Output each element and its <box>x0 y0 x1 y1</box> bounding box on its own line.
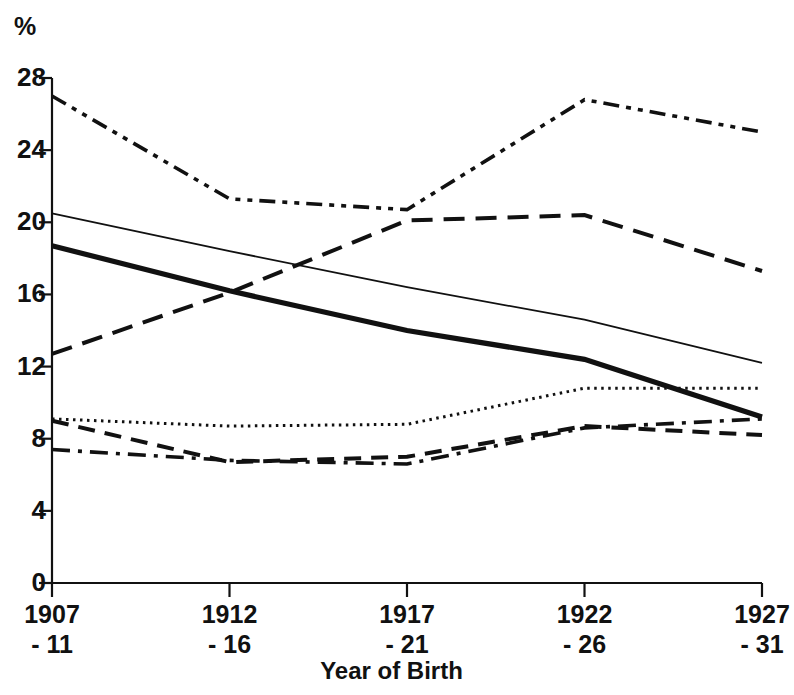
y-axis-tick-label: 28 <box>0 64 46 90</box>
x-axis-tick-label: 1907- 11 <box>0 600 112 659</box>
series-medium-dash <box>52 421 762 462</box>
x-tick-year-start: 1912 <box>202 600 258 628</box>
x-tick-year-end: - 16 <box>170 630 290 660</box>
x-tick-year-start: 1907 <box>24 600 80 628</box>
series-thin-solid <box>52 213 762 363</box>
y-axis-tick-label: 16 <box>0 280 46 306</box>
x-axis-tick-label: 1922- 26 <box>525 600 645 659</box>
x-tick-year-end: - 21 <box>347 630 467 660</box>
y-axis-tick-label: 4 <box>0 497 46 523</box>
series-dash-dot-dot <box>52 96 762 210</box>
x-tick-year-end: - 31 <box>702 630 794 660</box>
x-tick-year-start: 1917 <box>379 600 435 628</box>
y-axis-tick-label: 20 <box>0 208 46 234</box>
x-axis-tick-label: 1927- 31 <box>702 600 794 659</box>
x-tick-year-start: 1922 <box>557 600 613 628</box>
series-lines <box>52 96 762 464</box>
x-tick-year-start: 1927 <box>734 600 790 628</box>
series-dotted <box>52 388 762 426</box>
x-tick-year-end: - 26 <box>525 630 645 660</box>
axes <box>39 78 762 597</box>
x-axis-title: Year of Birth <box>0 659 783 683</box>
y-axis-tick-label: 12 <box>0 353 46 379</box>
y-axis-tick-label: 0 <box>0 569 46 595</box>
x-tick-year-end: - 11 <box>0 630 112 660</box>
y-axis-tick-label: 8 <box>0 425 46 451</box>
x-axis-tick-label: 1917- 21 <box>347 600 467 659</box>
y-axis-tick-label: 24 <box>0 136 46 162</box>
x-axis-tick-label: 1912- 16 <box>170 600 290 659</box>
series-thick-solid <box>52 246 762 417</box>
